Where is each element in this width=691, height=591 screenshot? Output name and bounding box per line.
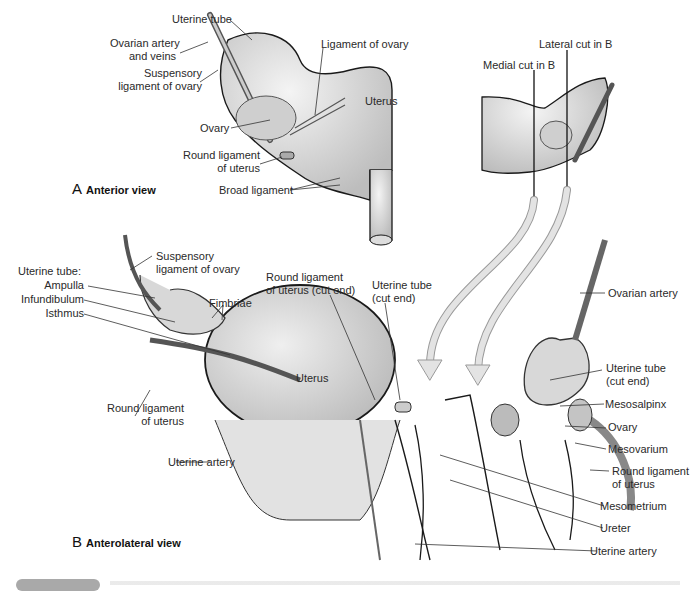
label-ureter: Ureter bbox=[600, 522, 631, 535]
label-line: Uterine tube bbox=[606, 362, 666, 374]
label-ovarian-artery: Ovarian artery bbox=[608, 287, 678, 300]
label-fimbriae: Fimbriae bbox=[209, 297, 252, 310]
label-line: ligament of ovary bbox=[156, 263, 240, 275]
label-line: Suspensory bbox=[144, 67, 202, 79]
label-lateral-cut: Lateral cut in B bbox=[539, 38, 612, 51]
panel-a-letter: A bbox=[72, 180, 82, 197]
panel-b-title-text: Anterolateral view bbox=[86, 537, 181, 549]
label-ligament-of-ovary-a: Ligament of ovary bbox=[321, 38, 408, 51]
label-medial-cut: Medial cut in B bbox=[483, 59, 555, 72]
panel-b-title: BAnterolateral view bbox=[72, 533, 181, 550]
figure-caption-truncated bbox=[110, 581, 680, 585]
panel-a-inset-drawing bbox=[482, 50, 612, 210]
label-line: Uterine tube bbox=[372, 279, 432, 291]
label-line: Ovarian artery bbox=[110, 37, 180, 49]
label-uterine-tube-cut-end: Uterine tube (cut end) bbox=[372, 279, 432, 305]
label-uterine-tube-cut-end-right: Uterine tube (cut end) bbox=[606, 362, 666, 388]
label-ovarian-artery-veins-a: Ovarian artery and veins bbox=[110, 37, 176, 63]
label-round-ligament-left: Round ligament of uterus bbox=[80, 402, 184, 428]
label-line: (cut end) bbox=[606, 375, 649, 387]
label-round-ligament-a: Round ligament of uterus bbox=[170, 149, 260, 175]
label-uterine-tube-a: Uterine tube bbox=[172, 13, 232, 26]
label-infundibulum: Infundibulum bbox=[10, 293, 84, 306]
panel-b-letter: B bbox=[72, 533, 82, 550]
label-broad-ligament-a: Broad ligament bbox=[219, 184, 293, 197]
label-line: (cut end) bbox=[372, 292, 415, 304]
label-round-ligament-right: Round ligament of uterus bbox=[612, 465, 689, 491]
label-line: ligament of ovary bbox=[118, 80, 202, 92]
label-line: Round ligament bbox=[183, 149, 260, 161]
label-mesovarium: Mesovarium bbox=[608, 443, 668, 456]
label-line: Round ligament bbox=[266, 271, 343, 283]
label-line: Suspensory bbox=[156, 250, 214, 262]
label-isthmus: Isthmus bbox=[20, 307, 84, 320]
label-round-ligament-cut-end: Round ligament of uterus (cut end) bbox=[266, 271, 355, 297]
label-mesosalpinx: Mesosalpinx bbox=[605, 398, 666, 411]
label-uterine-artery-right: Uterine artery bbox=[590, 545, 657, 558]
label-line: of uterus bbox=[217, 162, 260, 174]
label-line: Round ligament bbox=[107, 402, 184, 414]
label-uterine-artery-left: Uterine artery bbox=[168, 456, 235, 469]
label-uterine-tube-heading: Uterine tube: bbox=[18, 265, 81, 278]
label-uterus-b: Uterus bbox=[296, 372, 328, 385]
panel-a-title: AAnterior view bbox=[72, 180, 156, 197]
label-uterus-a: Uterus bbox=[365, 95, 397, 108]
label-suspensory-ligament-a: Suspensory ligament of ovary bbox=[110, 67, 202, 93]
label-line: of uterus bbox=[141, 415, 184, 427]
label-line: of uterus bbox=[612, 478, 655, 490]
figure-number-badge bbox=[16, 579, 100, 591]
label-line: Round ligament bbox=[612, 465, 689, 477]
label-ovary-a: Ovary bbox=[200, 122, 229, 135]
panel-a-title-text: Anterior view bbox=[86, 184, 156, 196]
label-line: and veins bbox=[129, 50, 176, 62]
label-ovary-b: Ovary bbox=[608, 421, 637, 434]
label-suspensory-ligament-b: Suspensory ligament of ovary bbox=[156, 250, 240, 276]
label-mesometrium: Mesometrium bbox=[600, 500, 667, 513]
label-ampulla: Ampulla bbox=[20, 279, 84, 292]
label-line: of uterus (cut end) bbox=[266, 284, 355, 296]
